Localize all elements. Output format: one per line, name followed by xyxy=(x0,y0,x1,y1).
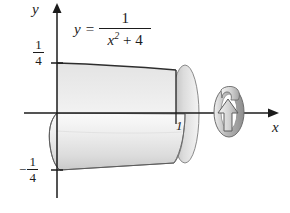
equation-denominator: x2 + 4 xyxy=(108,29,143,48)
equation-denominator-exponent: 2 xyxy=(114,30,119,41)
tick-label-x-one: 1 xyxy=(176,119,183,132)
fraction-one-quarter: 1 4 xyxy=(33,38,44,67)
solid-of-revolution-body xyxy=(49,63,199,170)
x-axis-label: x xyxy=(272,120,279,135)
equation-fraction: 1 x2 + 4 xyxy=(99,11,151,48)
solid-upper-region xyxy=(57,63,176,113)
fraction-denominator: 4 xyxy=(28,170,39,184)
fraction-one-quarter-negative: 1 4 xyxy=(27,155,38,184)
rotation-arrow-icon xyxy=(214,86,244,137)
minus-sign: − xyxy=(19,163,26,177)
tick-label-one-quarter-negative: − 1 4 xyxy=(19,155,38,184)
equation-denominator-rest: + 4 xyxy=(123,32,143,48)
fraction-numerator: 1 xyxy=(28,155,39,169)
equation-equals-sign: = xyxy=(86,21,94,38)
tick-label-one-quarter-positive: 1 4 xyxy=(33,38,44,67)
fraction-numerator: 1 xyxy=(33,38,44,52)
x-axis-arrowhead xyxy=(268,109,279,118)
y-axis-label: y xyxy=(32,2,39,17)
y-axis-arrowhead xyxy=(53,3,62,13)
solid-lower-surface xyxy=(49,113,185,170)
fraction-denominator: 4 xyxy=(33,53,44,67)
solid-of-revolution-figure: y x 1 4 − 1 4 1 y = 1 x2 + 4 xyxy=(0,0,290,213)
equation-left-side: y xyxy=(74,21,81,38)
equation-numerator: 1 xyxy=(121,11,129,28)
equation-label: y = 1 x2 + 4 xyxy=(74,11,151,48)
